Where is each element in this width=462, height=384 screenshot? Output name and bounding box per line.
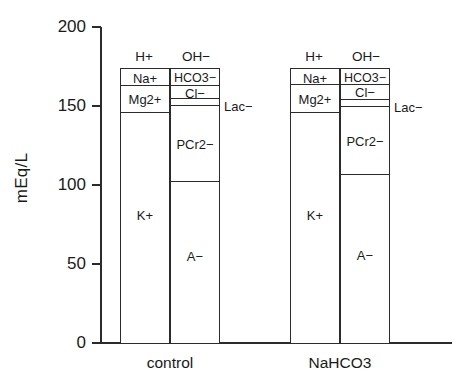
segment-label-hco3: HCO3−	[341, 72, 389, 85]
y-tick-150	[92, 105, 101, 107]
segment-control-k: K+	[121, 113, 169, 342]
segment-label-hco3: HCO3−	[171, 72, 219, 85]
segment-control-cl: Cl−	[171, 86, 219, 99]
stacked-bar-chart: mEq/L 200 150 100 50 0 H+ OH− Na+ Mg2+ K…	[0, 0, 462, 384]
y-tick-100	[92, 184, 101, 186]
segment-label-mg: Mg2+	[291, 93, 339, 106]
segment-nahco3-cl: Cl−	[341, 85, 389, 100]
segment-control-lac	[171, 99, 219, 106]
segment-label-pcr: PCr2−	[341, 135, 389, 148]
segment-label-cl: Cl−	[341, 86, 389, 99]
segment-nahco3-a: A−	[341, 175, 389, 342]
segment-label-mg: Mg2+	[121, 93, 169, 106]
segment-nahco3-mg: Mg2+	[291, 85, 339, 113]
y-tick-label-50: 50	[26, 255, 86, 272]
segment-label-k: K+	[121, 209, 169, 222]
segment-label-a: A−	[341, 249, 389, 262]
segment-control-mg: Mg2+	[121, 86, 169, 113]
bar-nahco3-anion: HCO3− Cl− PCr2− A−	[340, 68, 390, 344]
y-tick-label-200: 200	[26, 18, 86, 35]
segment-label-na: Na+	[121, 72, 169, 85]
segment-control-a: A−	[171, 182, 219, 343]
segment-nahco3-k: K+	[291, 113, 339, 342]
y-tick-label-100: 100	[26, 176, 86, 193]
y-tick-label-150: 150	[26, 97, 86, 114]
group-label-control: control	[110, 355, 230, 371]
y-tick-0	[92, 342, 101, 344]
segment-label-pcr: PCr2−	[171, 138, 219, 151]
bar-header-nahco3-cation: H+	[288, 50, 340, 64]
bar-header-nahco3-anion: OH−	[340, 50, 392, 64]
segment-nahco3-pcr: PCr2−	[341, 107, 389, 175]
bar-header-control-anion: OH−	[170, 50, 222, 64]
group-label-nahco3: NaHCO3	[280, 355, 400, 371]
bar-control-cation: Na+ Mg2+ K+	[120, 68, 170, 344]
segment-control-na: Na+	[121, 69, 169, 86]
segment-nahco3-na: Na+	[291, 69, 339, 85]
y-tick-50	[92, 263, 101, 265]
y-tick-200	[92, 26, 101, 28]
segment-label-na: Na+	[291, 72, 339, 85]
segment-nahco3-lac	[341, 100, 389, 107]
annotation-lac-control: Lac−	[224, 100, 253, 113]
segment-label-a: A−	[171, 250, 219, 263]
annotation-lac-nahco3: Lac−	[394, 101, 423, 114]
bar-nahco3-cation: Na+ Mg2+ K+	[290, 68, 340, 344]
segment-control-pcr: PCr2−	[171, 106, 219, 182]
y-tick-label-0: 0	[26, 334, 86, 351]
segment-label-k: K+	[291, 209, 339, 222]
bar-header-control-cation: H+	[118, 50, 170, 64]
segment-nahco3-hco3: HCO3−	[341, 69, 389, 85]
segment-control-hco3: HCO3−	[171, 69, 219, 86]
bar-control-anion: HCO3− Cl− PCr2− A−	[170, 68, 220, 344]
